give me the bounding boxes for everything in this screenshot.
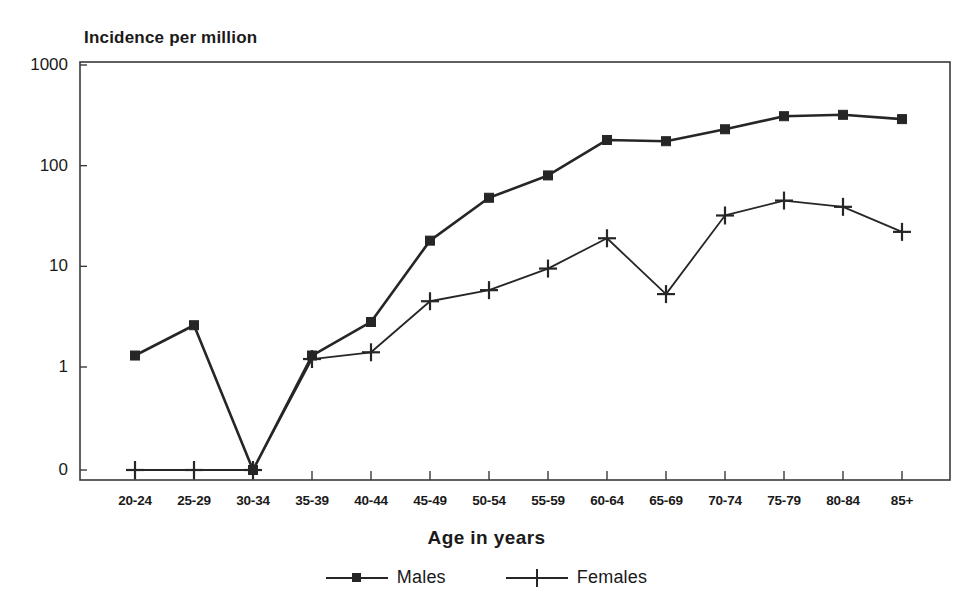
x-tick-label: 85+ [891,493,913,508]
chart-legend: Males Females [0,567,973,588]
data-point-marker-square [544,171,553,180]
x-tick-label: 35-39 [295,493,329,508]
y-tick-label: 1000 [0,55,68,75]
data-point-marker-square [898,115,907,124]
x-tick-label: 25-29 [177,493,211,508]
data-point-marker-plus [539,260,557,278]
data-point-marker-plus [480,281,498,299]
legend-label-females: Females [577,567,647,588]
x-axis-title: Age in years [0,527,973,549]
data-point-marker-plus [126,461,144,479]
data-point-marker-square [190,321,199,330]
x-tick-label: 20-24 [118,493,152,508]
series-line-females [135,201,902,470]
x-tick-label: 80-84 [826,493,860,508]
x-tick-label: 40-44 [354,493,388,508]
data-point-marker-plus [834,198,852,216]
plot-frame [80,62,950,480]
data-point-marker-square [367,317,376,326]
x-tick-label: 50-54 [472,493,506,508]
y-tick-label: 0 [0,460,68,480]
series-line-males [135,115,902,470]
y-tick-label: 100 [0,156,68,176]
x-tick-label: 45-49 [413,493,447,508]
data-point-marker-plus [893,223,911,241]
x-tick-label: 70-74 [708,493,742,508]
data-point-marker-square [426,236,435,245]
x-tick-label: 65-69 [649,493,683,508]
plot-area [0,0,973,611]
y-tick-label: 1 [0,357,68,377]
data-point-marker-plus [244,461,262,479]
legend-label-males: Males [397,567,446,588]
data-point-marker-square [780,112,789,121]
legend-marker-square-icon [326,568,388,588]
data-point-marker-square [839,110,848,119]
data-point-marker-square [662,137,671,146]
x-tick-label: 30-34 [236,493,270,508]
x-tick-label: 55-59 [531,493,565,508]
data-point-marker-plus [185,461,203,479]
data-point-marker-plus [716,206,734,224]
legend-item-females: Females [506,567,647,588]
data-point-marker-square [485,193,494,202]
data-point-marker-square [721,125,730,134]
data-point-marker-square [603,135,612,144]
x-tick-label: 60-64 [590,493,624,508]
legend-item-males: Males [326,567,446,588]
data-point-marker-square [131,351,140,360]
y-tick-label: 10 [0,256,68,276]
data-point-marker-plus [775,192,793,210]
x-tick-label: 75-79 [767,493,801,508]
incidence-by-age-chart: Incidence per million 01101001000 20-242… [0,0,973,611]
legend-marker-plus-icon [506,568,568,588]
